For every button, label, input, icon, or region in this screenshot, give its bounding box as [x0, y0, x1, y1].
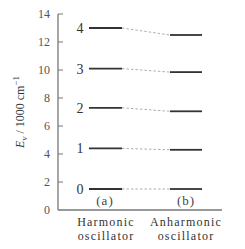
level-number-0: 0 [77, 182, 84, 197]
y-tick-label: 10 [38, 63, 50, 77]
x-label-anharmonic-line2: oscillator [158, 229, 215, 243]
svg-text:Ev / 1000 cm−1: Ev / 1000 cm−1 [11, 76, 29, 149]
x-label-anharmonic-line1: Anharmonic [150, 215, 222, 229]
x-label-harmonic-line1: Harmonic [77, 215, 135, 229]
level-connector [122, 28, 170, 35]
y-tick-label: 6 [44, 119, 50, 133]
y-tick-label: 2 [44, 175, 50, 189]
level-number-4: 4 [77, 21, 84, 36]
energy-level-chart: 02468101214 01234 (a) (b) Harmonic oscil… [0, 0, 245, 249]
y-tick-label: 0 [44, 203, 50, 217]
level-connector [122, 69, 170, 73]
panel-label-b: (b) [177, 193, 195, 208]
level-number-3: 3 [77, 62, 84, 77]
level-number-2: 2 [77, 101, 84, 116]
y-tick-label: 8 [44, 91, 50, 105]
y-tick-label: 4 [44, 147, 50, 161]
x-label-harmonic-line2: oscillator [78, 229, 135, 243]
y-tick-label: 12 [38, 35, 50, 49]
labels: (a) (b) Harmonic oscillator Anharmonic o… [11, 76, 222, 243]
level-connector [122, 148, 170, 149]
y-tick-label: 14 [38, 7, 50, 21]
level-number-1: 1 [77, 141, 84, 156]
panel-label-a: (a) [96, 193, 113, 208]
energy-levels: 01234 [77, 21, 203, 197]
y-axis-label: Ev / 1000 cm−1 [11, 76, 29, 149]
level-connector [122, 108, 170, 112]
